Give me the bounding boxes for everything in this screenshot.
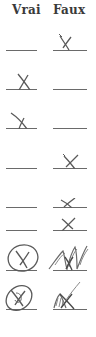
header-faux: Faux (53, 3, 85, 17)
x-mark-icon (62, 153, 80, 169)
faux-blank[interactable] (53, 89, 87, 90)
vrai-blank[interactable] (6, 207, 37, 208)
vrai-blank[interactable] (6, 230, 37, 231)
answer-row-2 (0, 89, 96, 90)
answer-row-1 (0, 50, 96, 51)
x-mark-icon (59, 217, 77, 231)
circled-x-icon (4, 242, 42, 274)
answer-row-6 (0, 230, 96, 231)
answer-row-8 (0, 309, 96, 310)
vrai-blank[interactable] (6, 168, 37, 169)
x-mark-icon (58, 33, 74, 51)
scribble-icon (47, 243, 89, 271)
header-vrai: Vrai (12, 3, 41, 17)
answer-row-5 (0, 207, 96, 208)
scribble-icon (52, 280, 82, 310)
x-mark-icon (16, 73, 32, 90)
answer-row-4 (0, 168, 96, 169)
answer-row-7 (0, 270, 96, 271)
x-mark-icon (10, 112, 30, 129)
vrai-blank[interactable] (6, 50, 37, 51)
answer-row-3 (0, 128, 96, 129)
circled-x-icon (2, 281, 36, 315)
x-mark-icon (59, 198, 77, 208)
faux-blank[interactable] (53, 128, 87, 129)
